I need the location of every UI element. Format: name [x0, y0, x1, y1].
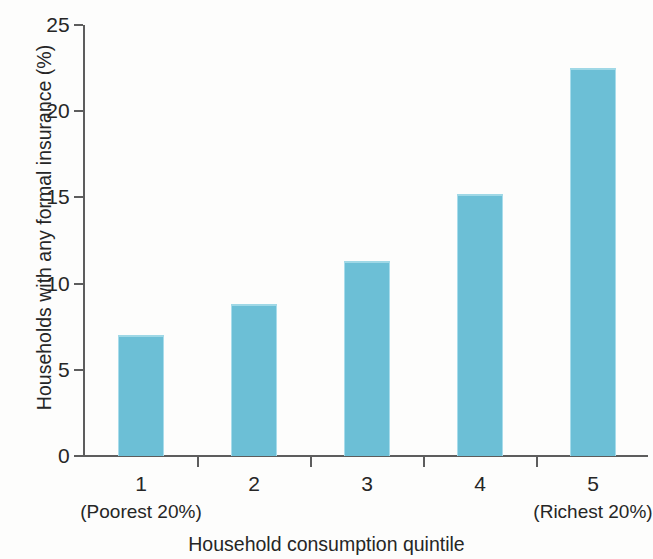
y-axis-tick-mark — [74, 110, 83, 112]
bar-4 — [457, 194, 503, 456]
x-axis-title: Household consumption quintile — [0, 533, 653, 556]
x-axis-category-sublabel-5: (Richest 20%) — [493, 502, 653, 521]
x-axis-category-label-5: 5 — [533, 473, 653, 494]
bar-1 — [118, 335, 164, 456]
y-axis-title: Households with any formal insurance (%) — [33, 0, 56, 458]
bar-2 — [231, 304, 277, 456]
figure-canvas: 0510152025 1(Poorest 20%)2345(Richest 20… — [0, 0, 653, 559]
x-axis-tick-mark — [536, 457, 538, 467]
y-axis-tick-mark — [74, 369, 83, 371]
x-axis-category-label-2: 2 — [194, 473, 314, 494]
bar-3 — [344, 261, 390, 456]
y-axis-tick-mark — [74, 283, 83, 285]
bar-5 — [570, 68, 616, 456]
y-axis-tick-mark — [74, 24, 83, 26]
x-axis-tick-mark — [423, 457, 425, 467]
x-axis-tick-mark — [310, 457, 312, 467]
y-axis-tick-mark — [74, 196, 83, 198]
x-axis-category-label-3: 3 — [307, 473, 427, 494]
x-axis-category-label-4: 4 — [420, 473, 540, 494]
y-axis-line — [83, 25, 85, 457]
x-axis-category-sublabel-1: (Poorest 20%) — [41, 502, 241, 521]
x-axis-category-label-1: 1 — [81, 473, 201, 494]
y-axis-tick-mark — [74, 455, 83, 457]
bar-chart-plot-area: 0510152025 1(Poorest 20%)2345(Richest 20… — [0, 0, 653, 559]
x-axis-tick-mark — [197, 457, 199, 467]
